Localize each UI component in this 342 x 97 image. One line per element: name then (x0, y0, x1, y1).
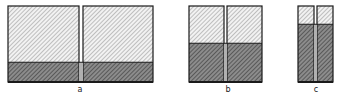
panel-lower-region (317, 24, 333, 82)
gap-band (79, 62, 83, 82)
panel-upper-region (83, 6, 153, 62)
panel-lower-region (189, 43, 224, 82)
figure-b (189, 6, 262, 82)
panel-upper-region (8, 6, 79, 62)
panel-lower-region (8, 62, 79, 82)
gap-band (314, 24, 317, 82)
diagram: a b c (0, 0, 342, 97)
figure-a (8, 6, 153, 82)
panel-upper-region (298, 6, 314, 24)
panel-lower-region (227, 43, 262, 82)
figure-b-label: b (225, 85, 230, 94)
panel-lower-region (298, 24, 314, 82)
panel-upper-region (189, 6, 224, 43)
figure-c-label: c (314, 85, 318, 94)
figure-a-label: a (78, 85, 83, 94)
panel-upper-region (317, 6, 333, 24)
panel-upper-region (227, 6, 262, 43)
figure-c (298, 6, 333, 82)
gap-band (224, 43, 227, 82)
panel-lower-region (83, 62, 153, 82)
